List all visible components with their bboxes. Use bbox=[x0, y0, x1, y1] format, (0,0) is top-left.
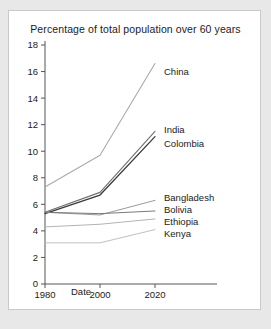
x-axis: 198020002020 bbox=[34, 284, 217, 300]
series-label-colombia: Colombia bbox=[164, 138, 205, 149]
y-tick-label: 14 bbox=[27, 93, 38, 104]
line-chart-plot: 024681012141618 198020002020 ChinaIndiaC… bbox=[9, 11, 262, 311]
series-line-india bbox=[45, 131, 155, 212]
series-labels: ChinaIndiaColombiaBangladeshBoliviaEthio… bbox=[164, 66, 214, 239]
y-tick-label: 2 bbox=[33, 252, 38, 263]
y-tick-label: 8 bbox=[33, 172, 38, 183]
x-tick-label: 1980 bbox=[34, 289, 55, 300]
series-line-kenya bbox=[45, 230, 155, 243]
series-line-china bbox=[45, 64, 155, 187]
y-tick-label: 4 bbox=[33, 225, 38, 236]
y-tick-label: 6 bbox=[33, 199, 38, 210]
series-lines bbox=[45, 64, 155, 243]
series-label-ethiopia: Ethiopia bbox=[164, 216, 199, 227]
series-label-kenya: Kenya bbox=[164, 228, 192, 239]
y-axis: 024681012141618 bbox=[27, 39, 45, 289]
y-tick-label: 16 bbox=[27, 66, 38, 77]
y-tick-label: 18 bbox=[27, 39, 38, 50]
y-tick-label: 12 bbox=[27, 119, 38, 130]
series-line-colombia bbox=[45, 137, 155, 214]
y-tick-label: 10 bbox=[27, 146, 38, 157]
x-axis-title: Date bbox=[71, 286, 91, 297]
series-label-bolivia: Bolivia bbox=[164, 204, 193, 215]
series-line-ethiopia bbox=[45, 219, 155, 227]
x-tick-label: 2020 bbox=[144, 289, 165, 300]
series-label-china: China bbox=[164, 66, 190, 77]
chart-card: Percentage of total population over 60 y… bbox=[8, 10, 261, 310]
x-tick-label: 2000 bbox=[89, 289, 110, 300]
series-label-bangladesh: Bangladesh bbox=[164, 192, 214, 203]
y-tick-label: 0 bbox=[33, 278, 38, 289]
series-label-india: India bbox=[164, 124, 185, 135]
